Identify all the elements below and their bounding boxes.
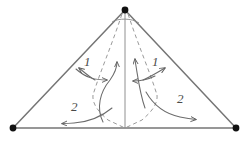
label-2-right: 2 <box>177 92 184 105</box>
flow-arrow-left-upward <box>99 62 117 122</box>
diagram-canvas <box>0 0 249 144</box>
label-1-right: 1 <box>152 55 159 68</box>
flow-arrow-right-bottom <box>146 92 196 120</box>
bottom-left-vertex-dot <box>10 125 17 132</box>
flow-arrow-left-outward <box>79 68 95 80</box>
dashed-left-lower-line <box>93 95 125 128</box>
bottom-right-vertex-dot <box>233 125 240 132</box>
flow-arrow-right-outward <box>143 68 165 80</box>
label-1-left: 1 <box>84 55 91 68</box>
apex-vertex-dot <box>122 7 129 14</box>
flow-arrow-right-upward <box>135 59 145 108</box>
figure-root: 1 1 2 2 <box>0 0 249 144</box>
dashed-right-lower-line <box>125 95 157 128</box>
flow-arrow-left-bottom <box>62 108 112 124</box>
label-2-left: 2 <box>71 100 78 113</box>
